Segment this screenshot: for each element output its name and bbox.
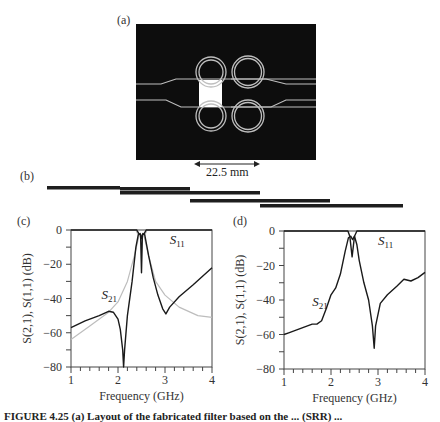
y-tick-label: −40 bbox=[256, 293, 275, 307]
x-axis-label: Frequency (GHz) bbox=[312, 391, 396, 405]
series-s21-measured bbox=[284, 236, 425, 348]
y-tick-label: 0 bbox=[269, 224, 275, 238]
annotation-s11: S11 bbox=[378, 233, 393, 250]
y-tick-label: −60 bbox=[256, 328, 275, 342]
annotation-s21: S21 bbox=[312, 294, 328, 311]
x-tick-label: 3 bbox=[375, 375, 381, 389]
x-tick-label: 2 bbox=[328, 375, 334, 389]
y-tick-label: −20 bbox=[256, 259, 275, 273]
x-tick-label: 4 bbox=[422, 375, 428, 389]
series-s11-measured bbox=[284, 231, 425, 257]
figure-caption: FIGURE 4.25 (a) Layout of the fabricated… bbox=[4, 410, 342, 422]
y-tick-label: −80 bbox=[256, 362, 275, 376]
x-tick-label: 1 bbox=[281, 375, 287, 389]
plot-frame bbox=[284, 231, 425, 369]
y-axis-label: S(2,1), S(1,1) (dB) bbox=[233, 255, 247, 345]
